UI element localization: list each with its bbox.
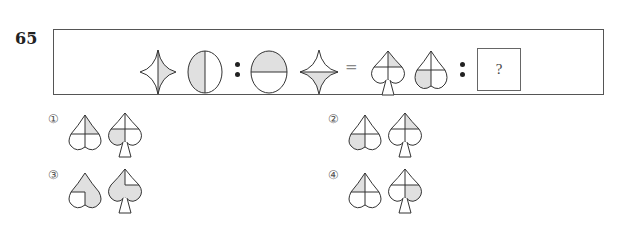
circle-horizontal-split-icon [250,50,288,94]
star-horizontal-split-icon [299,49,339,95]
option-1-label[interactable]: ① [48,112,59,126]
spade-upper-right-shaded-icon [371,50,405,96]
circle-vertical-split-icon [187,50,223,94]
ratio-colon [460,62,465,82]
option-3-spade-icon[interactable] [108,168,142,214]
option-2-spade-icon[interactable] [388,112,422,158]
option-4-label[interactable]: ④ [328,168,339,182]
option-3-label[interactable]: ③ [48,168,59,182]
question-number: 65 [15,29,37,48]
option-4-heart-icon[interactable] [348,172,382,212]
option-1-heart-icon[interactable] [68,114,102,154]
ratio-colon [235,62,240,82]
option-4-spade-icon[interactable] [388,168,422,214]
option-1-spade-icon[interactable] [108,112,142,158]
heart-lower-left-shaded-icon [414,50,448,94]
option-2-label[interactable]: ② [328,112,339,126]
unknown-answer-box: ? [477,48,521,91]
option-2-heart-icon[interactable] [348,114,382,154]
option-3-heart-icon[interactable] [68,172,102,212]
equals-sign: = [345,58,358,76]
star-vertical-split-icon [139,49,177,95]
